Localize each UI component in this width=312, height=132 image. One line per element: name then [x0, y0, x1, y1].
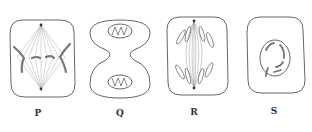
label-p: P: [35, 108, 42, 118]
cell-q-nucleus-top: [108, 24, 132, 38]
label-q: Q: [116, 108, 124, 118]
label-s: S: [271, 106, 278, 116]
cell-s: [247, 17, 305, 93]
cell-r-pole-top: [193, 20, 196, 23]
mitosis-diagram: [0, 0, 312, 132]
cell-s-membrane: [247, 17, 305, 93]
cell-q-chromosomes-bottom: [112, 78, 127, 86]
cell-q-chromosomes-top: [112, 27, 127, 35]
label-r: R: [190, 107, 197, 117]
cell-r: [167, 17, 228, 95]
cell-s-nucleus: [260, 40, 290, 76]
cell-p-chromosomes: [14, 44, 70, 72]
cell-p-pole-top: [40, 24, 43, 27]
cell-r-chromosomes: [174, 26, 215, 84]
cell-q: [90, 20, 150, 98]
cell-q-nucleus-bottom: [108, 75, 132, 89]
cell-r-pole-bottom: [193, 87, 196, 90]
cell-p: [10, 20, 75, 97]
cell-q-membrane: [90, 20, 150, 98]
cell-s-chromosomes: [266, 43, 284, 76]
cell-p-pole-bottom: [40, 88, 43, 91]
